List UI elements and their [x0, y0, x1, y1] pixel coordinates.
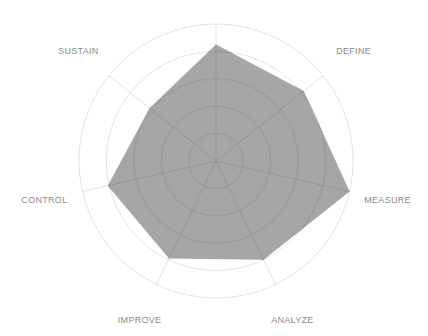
- axis-label-analyze: ANALYZE: [271, 315, 313, 325]
- axis-label-improve: IMPROVE: [118, 315, 162, 325]
- data-area: [108, 45, 350, 260]
- axis-label-control: CONTROL: [21, 195, 67, 205]
- axis-label-define: DEFINE: [336, 46, 371, 56]
- axis-label-measure: MEASURE: [364, 195, 411, 205]
- axis-label-sustain: SUSTAIN: [58, 46, 98, 56]
